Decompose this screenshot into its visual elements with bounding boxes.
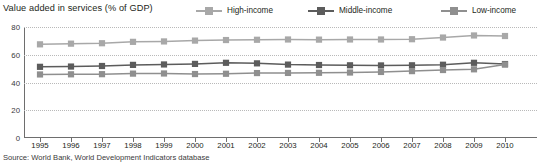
legend-label: High-income: [227, 6, 273, 15]
x-axis-tick-label: 2001: [217, 141, 234, 150]
legend-swatch-icon: [441, 10, 467, 12]
legend-marker-icon: [205, 7, 213, 15]
data-point-marker: [285, 62, 291, 68]
data-point-marker: [285, 70, 291, 76]
x-axis-tick-label: 2005: [341, 141, 358, 150]
gridline: [24, 110, 537, 111]
legend-item-low-income[interactable]: Low-income: [441, 4, 516, 17]
legend-marker-icon: [317, 7, 325, 15]
legend-marker-icon: [450, 7, 458, 15]
data-point-marker: [99, 40, 105, 46]
legend-item-middle-income[interactable]: Middle-income: [308, 4, 392, 17]
data-point-marker: [254, 37, 260, 43]
data-point-marker: [130, 62, 136, 68]
data-point-marker: [130, 71, 136, 77]
data-point-marker: [192, 71, 198, 77]
data-point-marker: [471, 60, 477, 66]
data-point-marker: [409, 36, 415, 42]
x-axis-tick-label: 2002: [248, 141, 265, 150]
data-point-marker: [316, 70, 322, 76]
data-point-marker: [161, 61, 167, 67]
legend-item-high-income[interactable]: High-income: [196, 4, 273, 17]
legend-label: Low-income: [472, 6, 516, 15]
data-point-marker: [99, 71, 105, 77]
data-point-marker: [192, 61, 198, 67]
legend-label: Middle-income: [339, 6, 392, 15]
data-point-marker: [223, 60, 229, 66]
series-line: [40, 63, 505, 67]
data-point-marker: [68, 71, 74, 77]
data-point-marker: [223, 71, 229, 77]
data-point-marker: [502, 33, 508, 39]
legend-swatch-icon: [308, 10, 334, 12]
data-point-marker: [378, 62, 384, 68]
gridline: [24, 83, 537, 84]
x-axis-tick-label: 2000: [186, 141, 203, 150]
x-axis-tick-label: 2008: [434, 141, 451, 150]
y-axis-tick-label: 80: [11, 23, 20, 32]
chart-figure: Value added in services (% of GDP) High-…: [0, 0, 555, 167]
data-point-marker: [409, 68, 415, 74]
y-axis-tick-label: 60: [11, 50, 20, 59]
chart-header: Value added in services (% of GDP) High-…: [0, 0, 555, 20]
gridline: [24, 27, 537, 28]
x-axis-tick-label: 1997: [93, 141, 110, 150]
data-point-marker: [99, 63, 105, 69]
data-point-marker: [37, 41, 43, 47]
data-point-marker: [37, 71, 43, 77]
y-axis-tick-label: 0: [16, 134, 20, 143]
plot-area: 0204060801995199619971998199920002001200…: [24, 27, 537, 138]
data-point-marker: [440, 62, 446, 68]
series-high-income: [37, 32, 508, 47]
data-point-marker: [161, 38, 167, 44]
series-middle-income: [37, 60, 508, 70]
source-note: Source: World Bank, World Development In…: [3, 153, 210, 162]
x-axis-tick-label: 1995: [31, 141, 48, 150]
data-point-marker: [37, 64, 43, 70]
data-point-marker: [409, 62, 415, 68]
x-axis-tick-label: 2006: [372, 141, 389, 150]
x-axis-tick-label: 2004: [310, 141, 327, 150]
data-point-marker: [440, 67, 446, 73]
x-axis-tick-label: 1998: [124, 141, 141, 150]
data-point-marker: [223, 37, 229, 43]
y-axis-tick-label: 20: [11, 106, 20, 115]
gridline: [24, 55, 537, 56]
data-point-marker: [316, 62, 322, 68]
data-point-marker: [378, 36, 384, 42]
x-axis-tick-label: 2010: [496, 141, 513, 150]
data-point-marker: [254, 60, 260, 66]
data-point-marker: [471, 66, 477, 72]
x-axis-tick-label: 1996: [62, 141, 79, 150]
legend-swatch-icon: [196, 10, 222, 12]
data-point-marker: [285, 36, 291, 42]
data-point-marker: [192, 37, 198, 43]
data-point-marker: [347, 36, 353, 42]
data-point-marker: [68, 63, 74, 69]
data-point-marker: [471, 32, 477, 38]
x-axis-tick-label: 2007: [403, 141, 420, 150]
page-title: Value added in services (% of GDP): [3, 3, 153, 13]
data-point-marker: [440, 34, 446, 40]
data-point-marker: [316, 37, 322, 43]
series-line: [40, 35, 505, 44]
data-point-marker: [378, 69, 384, 75]
chart-legend: High-incomeMiddle-incomeLow-income: [196, 4, 552, 17]
x-axis-tick-label: 2003: [279, 141, 296, 150]
data-point-marker: [347, 62, 353, 68]
data-point-marker: [254, 70, 260, 76]
y-axis-tick-label: 40: [11, 78, 20, 87]
data-point-marker: [130, 39, 136, 45]
x-axis-tick-label: 1999: [155, 141, 172, 150]
data-point-marker: [347, 69, 353, 75]
data-point-marker: [502, 62, 508, 68]
data-point-marker: [161, 70, 167, 76]
data-point-marker: [68, 41, 74, 47]
x-axis-tick-label: 2009: [465, 141, 482, 150]
